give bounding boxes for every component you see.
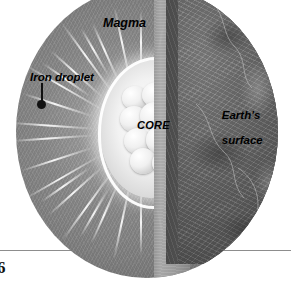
label-earth-surface-line1: Earth's (222, 109, 261, 121)
ray (21, 146, 94, 171)
iron-droplet-dot (37, 100, 46, 109)
label-earth-surface-line2: surface (222, 134, 263, 146)
ray (16, 134, 93, 142)
label-iron-droplet: Iron droplet (30, 71, 94, 83)
label-earth-surface: Earth's surface (209, 97, 263, 159)
page-number: 6 (0, 258, 6, 278)
earth-cutaway-figure: Magma CORE Iron droplet Earth's surface … (0, 0, 291, 284)
label-core: CORE (137, 120, 170, 132)
label-magma: Magma (103, 17, 146, 31)
ray (16, 122, 95, 130)
